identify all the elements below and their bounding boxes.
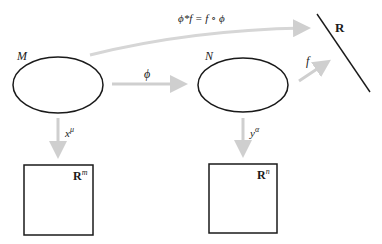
- label-y-alpha: yα: [250, 126, 259, 139]
- label-phi: ϕ: [144, 68, 150, 80]
- diagram-canvas: [0, 0, 382, 244]
- manifold-m-ellipse: [13, 57, 103, 113]
- label-rn-sup: n: [266, 167, 270, 176]
- manifold-n-ellipse: [198, 58, 288, 112]
- label-x-mu: xμ: [65, 126, 74, 139]
- label-rm-sup: m: [82, 168, 88, 177]
- label-rm: Rm: [73, 169, 87, 182]
- arrow-pullback: [90, 28, 305, 55]
- label-alpha: α: [255, 125, 259, 134]
- label-f: f: [306, 55, 309, 67]
- label-rn-base: R: [257, 168, 266, 182]
- label-r: R: [335, 21, 344, 34]
- label-rn: Rn: [257, 168, 270, 181]
- label-pullback: ϕ*f = f ∘ ϕ: [178, 13, 225, 24]
- label-rm-base: R: [73, 169, 82, 183]
- label-mu: μ: [70, 125, 74, 134]
- arrow-f: [299, 63, 326, 81]
- label-n: N: [205, 50, 213, 62]
- label-m: M: [17, 50, 27, 62]
